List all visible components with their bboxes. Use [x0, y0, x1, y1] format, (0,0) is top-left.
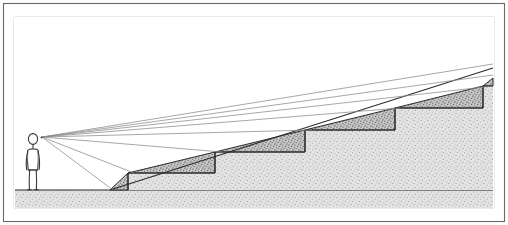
eye-point [41, 137, 43, 139]
ground-band [15, 190, 493, 208]
figure-torso [27, 149, 38, 170]
section-diagram [0, 0, 508, 225]
figure-root: Stepped terrace sightline section Archit… [0, 0, 508, 225]
figure-head [28, 134, 37, 145]
